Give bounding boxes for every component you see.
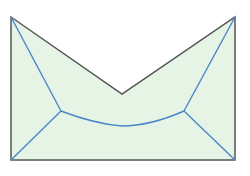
diagram-canvas <box>0 0 250 176</box>
polygon-shape <box>11 17 235 160</box>
